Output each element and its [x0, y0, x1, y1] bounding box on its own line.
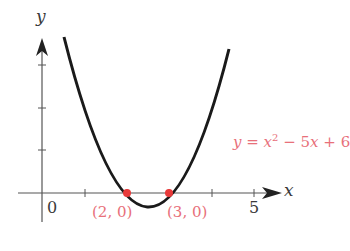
x-tick-label-5: 5	[249, 200, 259, 216]
eq-x2: x	[310, 133, 318, 151]
point-label-2-0: (2, 0)	[92, 205, 132, 220]
root-point-3-0	[165, 189, 173, 197]
x-axis-label: x	[284, 182, 294, 199]
root-point-2-0	[123, 189, 131, 197]
x-axis	[18, 187, 282, 199]
equation-label: y = x2 − 5x + 6	[233, 133, 350, 150]
eq-minus-5: − 5	[278, 133, 310, 151]
eq-x: x	[264, 133, 272, 151]
y-axis	[36, 38, 48, 222]
eq-plus-6: + 6	[319, 133, 350, 151]
origin-label: 0	[47, 200, 57, 216]
eq-equals: =	[241, 133, 263, 151]
y-axis-label: y	[36, 8, 46, 25]
parabola-curve	[64, 37, 229, 207]
point-label-3-0: (3, 0)	[167, 205, 207, 220]
